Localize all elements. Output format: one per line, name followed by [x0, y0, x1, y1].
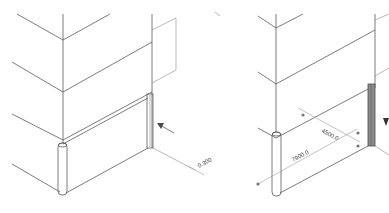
wall-course-line: [258, 14, 303, 28]
column-top: [272, 132, 281, 136]
panel-bottom-edge: [66, 148, 148, 193]
arrow-icon: [157, 123, 164, 129]
recess-face: [152, 18, 176, 83]
dimension-node: [256, 182, 259, 185]
wall-course-line: [258, 88, 370, 138]
dimension-label-left: 0.300: [197, 156, 214, 169]
wall-course-line: [258, 30, 375, 84]
wall-course-line: [17, 14, 110, 40]
drawing-canvas: 0.300 4500.0 7900.0: [0, 0, 389, 213]
recess-line: [375, 68, 389, 76]
left-panel-drawing: 0.300 4500.0 7900.0: [0, 0, 389, 213]
dimension-line-7900: [258, 129, 357, 184]
wall-base-line: [12, 164, 60, 192]
dimension-node: [301, 113, 304, 116]
panel-bottom-edge: [280, 146, 368, 193]
column-top: [58, 143, 67, 147]
wall-course-line: [12, 92, 152, 140]
dimension-node: [356, 144, 359, 147]
edge-trim-highlighted: [368, 84, 375, 146]
arrow-icon: [383, 118, 389, 126]
column-post: [272, 132, 281, 196]
recess-line: [375, 14, 389, 20]
stray-mark: [215, 12, 220, 16]
wall-course-line: [12, 42, 152, 92]
panel-top-edge: [63, 98, 148, 144]
column-post: [58, 143, 67, 195]
dimension-node: [356, 131, 359, 134]
floor-line: [375, 146, 389, 155]
